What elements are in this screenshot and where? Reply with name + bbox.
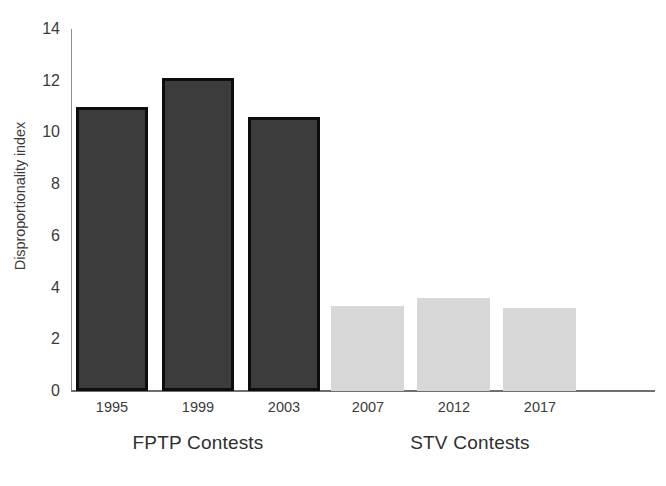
x-tick-label-2003: 2003 [268, 399, 300, 415]
y-tick-0: 0 [26, 382, 60, 400]
x-tick-label-2017: 2017 [524, 399, 556, 415]
x-tick-label-1999: 1999 [182, 399, 214, 415]
group-label-stv: STV Contests [410, 432, 530, 454]
bar-2012[interactable] [417, 298, 490, 391]
x-tick-label-2012: 2012 [438, 399, 470, 415]
x-tick-label-2007: 2007 [352, 399, 384, 415]
y-tick-4: 4 [26, 279, 60, 297]
bar-1995[interactable] [76, 107, 148, 391]
bar-2003[interactable] [248, 117, 320, 391]
y-tick-10: 10 [26, 123, 60, 141]
y-tick-12: 12 [26, 72, 60, 90]
y-tick-6: 6 [26, 227, 60, 245]
bar-chart: Disproportionality index 14 12 10 8 6 4 … [0, 0, 666, 486]
bar-2017[interactable] [503, 308, 576, 391]
bar-1999[interactable] [162, 78, 234, 391]
x-tick-label-1995: 1995 [96, 399, 128, 415]
bar-2007[interactable] [331, 306, 404, 391]
plot-area [71, 29, 655, 391]
y-tick-8: 8 [26, 175, 60, 193]
y-axis-tick-labels: 14 12 10 8 6 4 2 0 [26, 0, 60, 486]
y-tick-14: 14 [26, 20, 60, 38]
y-tick-2: 2 [26, 330, 60, 348]
group-label-fptp: FPTP Contests [132, 432, 263, 454]
